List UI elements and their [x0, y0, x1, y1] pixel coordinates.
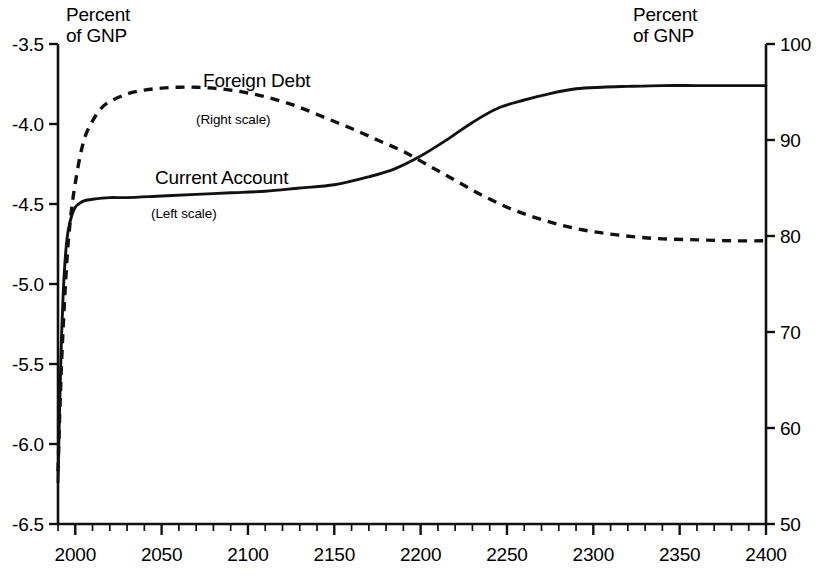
- right-axis: 1009080706050: [766, 34, 811, 535]
- series-line-foreign-debt: [58, 87, 766, 471]
- x-axis-tick-label: 2100: [227, 544, 268, 565]
- series-line-current-account: [58, 86, 766, 483]
- left-axis-tick-label: -6.0: [12, 434, 44, 455]
- x-axis-tick-label: 2250: [486, 544, 527, 565]
- left-axis-tick-label: -5.5: [12, 354, 44, 375]
- left-axis-tick-label: -3.5: [12, 34, 44, 55]
- left-axis-tick-label: -4.0: [12, 114, 44, 135]
- x-axis-tick-label: 2350: [659, 544, 700, 565]
- chart-figure: Percent of GNP Percent of GNP Foreign De…: [0, 0, 821, 578]
- right-axis-tick-label: 50: [780, 514, 801, 535]
- right-axis-tick-label: 70: [780, 322, 801, 343]
- right-axis-tick-label: 60: [780, 418, 801, 439]
- left-axis-tick-label: -5.0: [12, 274, 44, 295]
- x-axis-tick-label: 2150: [314, 544, 355, 565]
- right-axis-tick-label: 90: [780, 130, 801, 151]
- x-axis-tick-label: 2400: [745, 544, 786, 565]
- x-axis-tick-label: 2300: [573, 544, 614, 565]
- left-axis: -3.5-4.0-4.5-5.0-5.5-6.0-6.5: [12, 34, 58, 535]
- plot-area: -3.5-4.0-4.5-5.0-5.5-6.0-6.5 10090807060…: [0, 0, 821, 578]
- x-axis-tick-label: 2000: [55, 544, 96, 565]
- left-axis-tick-label: -4.5: [12, 194, 44, 215]
- x-axis-tick-label: 2200: [400, 544, 441, 565]
- series-group: [58, 86, 766, 483]
- right-axis-tick-label: 80: [780, 226, 801, 247]
- left-axis-tick-label: -6.5: [12, 514, 44, 535]
- right-axis-tick-label: 100: [780, 34, 811, 55]
- x-axis-tick-label: 2050: [141, 544, 182, 565]
- x-axis: 200020502100215022002250230023502400: [55, 524, 787, 565]
